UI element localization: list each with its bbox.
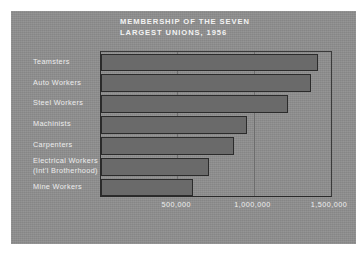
category-label: Carpenters — [33, 140, 73, 149]
bar-row — [101, 116, 331, 134]
category-label: Auto Workers — [33, 78, 81, 87]
x-tick-label: 1,000,000 — [234, 200, 270, 209]
bar-row — [101, 95, 331, 113]
bar — [101, 158, 209, 176]
category-label-column: TeamstersAuto WorkersSteel WorkersMachin… — [20, 51, 98, 197]
chart-title-line-1: MEMBERSHIP OF THE SEVEN — [120, 17, 330, 28]
bar — [101, 95, 288, 113]
chart-title-line-2: LARGEST UNIONS, 1956 — [120, 28, 330, 39]
category-label: Mine Workers — [33, 182, 82, 191]
bar-row — [101, 179, 331, 197]
bar-row — [101, 158, 331, 176]
x-tick-label: 1,500,000 — [311, 200, 347, 209]
bar — [101, 74, 311, 92]
bar-row — [101, 74, 331, 92]
category-label: Steel Workers — [33, 98, 83, 107]
category-label: Machinists — [33, 119, 71, 128]
bar — [101, 116, 247, 134]
chart-title: MEMBERSHIP OF THE SEVEN LARGEST UNIONS, … — [120, 17, 330, 38]
plot-area — [100, 51, 332, 197]
category-label: Electrical Workers(Int'l Brotherhood) — [33, 156, 98, 174]
category-label-line-1: Electrical Workers — [33, 156, 98, 165]
category-label-line-1: Teamsters — [33, 57, 70, 66]
bar-series — [101, 52, 331, 196]
bar — [101, 137, 234, 155]
category-label-line-1: Steel Workers — [33, 98, 83, 107]
category-label-line-1: Mine Workers — [33, 182, 82, 191]
category-label-line-1: Carpenters — [33, 140, 73, 149]
category-label-line-2: (Int'l Brotherhood) — [33, 166, 98, 175]
x-axis-tick-labels: 500,0001,000,0001,500,000 — [100, 200, 332, 214]
bar-row — [101, 54, 331, 72]
chart-card: MEMBERSHIP OF THE SEVEN LARGEST UNIONS, … — [11, 11, 356, 244]
bar — [101, 179, 193, 197]
category-label-line-1: Machinists — [33, 119, 71, 128]
category-label: Teamsters — [33, 57, 70, 66]
x-tick-label: 500,000 — [162, 200, 191, 209]
bar — [101, 54, 318, 72]
bar-row — [101, 137, 331, 155]
category-label-line-1: Auto Workers — [33, 78, 81, 87]
